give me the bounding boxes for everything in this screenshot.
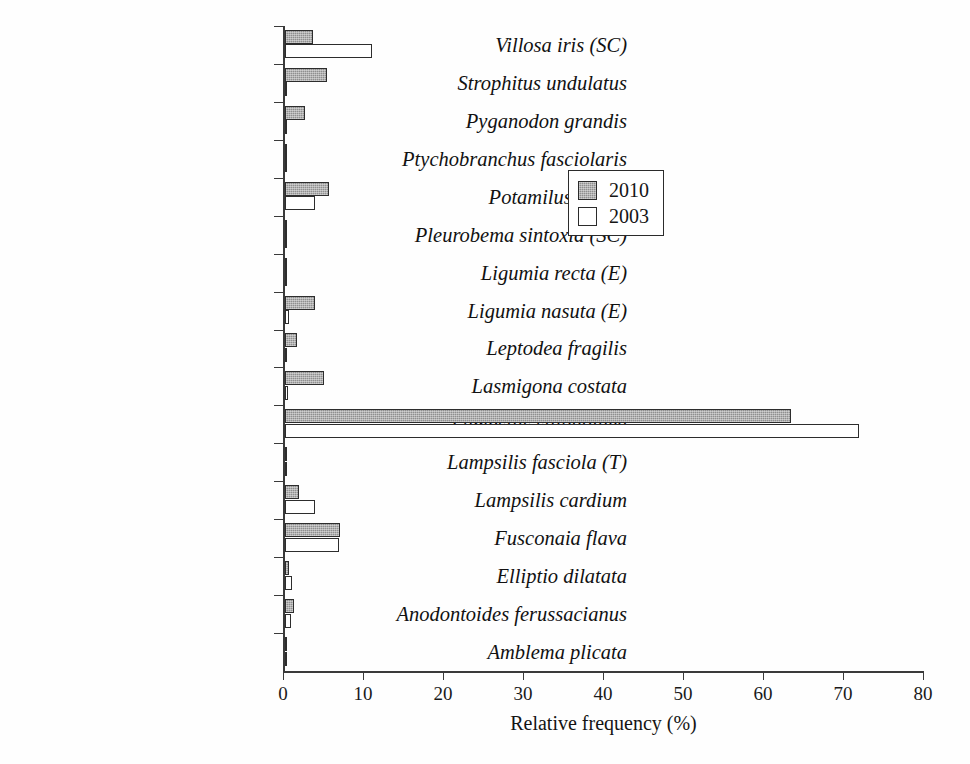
- category-row: Lampsilis siliquoidea: [283, 405, 923, 441]
- y-axis-tick: [274, 557, 283, 558]
- category-label: Amblema plicata: [488, 642, 628, 663]
- x-axis-tick-label: 50: [674, 683, 693, 705]
- y-axis-tick: [274, 178, 283, 179]
- bar-2010: [285, 523, 340, 537]
- bar-2003: [285, 234, 287, 248]
- category-label: Fusconaia flava: [494, 528, 627, 549]
- legend-entry: 2010: [578, 177, 649, 203]
- bar-2010: [285, 258, 287, 272]
- y-axis-tick: [274, 481, 283, 482]
- category-row: Lampsilis cardium: [283, 481, 923, 517]
- x-axis-tick: [443, 671, 444, 680]
- x-axis-tick: [363, 671, 364, 680]
- bar-2010: [285, 447, 287, 461]
- y-axis-tick: [274, 367, 283, 368]
- y-axis-tick: [557, 671, 566, 672]
- category-label: Strophitus undulatus: [457, 73, 627, 94]
- category-row: Anodontoides ferussacianus: [283, 595, 923, 631]
- y-axis-tick: [274, 216, 283, 217]
- x-axis-tick: [923, 671, 924, 680]
- legend-swatch-icon: [578, 207, 597, 226]
- category-label: Ligumia recta (E): [481, 263, 627, 284]
- x-axis-tick: [283, 671, 284, 680]
- category-label: Ligumia nasuta (E): [468, 301, 627, 322]
- x-axis-title: Relative frequency (%): [283, 712, 924, 735]
- legend-entry: 2003: [578, 203, 649, 229]
- x-axis-tick: [603, 671, 604, 680]
- bar-2003: [285, 272, 287, 286]
- bar-2003: [285, 44, 372, 58]
- y-axis-tick: [274, 330, 283, 331]
- y-axis-tick: [274, 519, 283, 520]
- category-row: Lampsilis fasciola (T): [283, 443, 923, 479]
- bar-2010: [285, 144, 287, 158]
- bar-2003: [285, 424, 859, 438]
- category-row: Elliptio dilatata: [283, 557, 923, 593]
- bar-2003: [285, 538, 339, 552]
- y-axis-tick: [274, 595, 283, 596]
- category-row: Ligumia recta (E): [283, 254, 923, 290]
- bar-2010: [285, 30, 313, 44]
- category-label: Leptodea fragilis: [486, 338, 627, 359]
- x-axis-tick: [523, 671, 524, 680]
- x-axis-tick-label: 10: [354, 683, 373, 705]
- y-axis-tick: [274, 102, 283, 103]
- bar-2010: [285, 182, 329, 196]
- bar-2010: [285, 599, 294, 613]
- legend-label: 2003: [609, 206, 649, 226]
- caption-sliver: [8, 752, 958, 764]
- category-label: Anodontoides ferussacianus: [396, 604, 627, 625]
- x-axis-tick-label: 20: [434, 683, 453, 705]
- bar-2003: [285, 500, 315, 514]
- y-axis-tick: [274, 254, 283, 255]
- category-row: Pyganodon grandis: [283, 102, 923, 138]
- y-axis-tick: [274, 140, 283, 141]
- category-label: Lampsilis fasciola (T): [447, 452, 627, 473]
- bar-2003: [285, 158, 287, 172]
- bar-2003: [285, 310, 289, 324]
- bar-2010: [285, 333, 297, 347]
- category-row: Leptodea fragilis: [283, 330, 923, 366]
- category-label: Lasmigona costata: [472, 376, 627, 397]
- x-axis-tick-label: 60: [754, 683, 773, 705]
- bar-2003: [285, 196, 315, 210]
- bar-2003: [285, 576, 292, 590]
- bar-2010: [285, 220, 287, 234]
- chart-legend: 20102003: [568, 170, 664, 236]
- x-axis-tick-label: 0: [278, 683, 288, 705]
- y-axis-tick: [274, 292, 283, 293]
- bar-2003: [285, 614, 291, 628]
- bar-2010: [285, 409, 791, 423]
- bar-2003: [285, 348, 287, 362]
- x-axis-tick-label: 80: [914, 683, 933, 705]
- bar-2003: [285, 386, 288, 400]
- x-axis-tick-label: 70: [834, 683, 853, 705]
- category-row: Strophitus undulatus: [283, 64, 923, 100]
- bar-2003: [285, 120, 287, 134]
- category-row: Ligumia nasuta (E): [283, 292, 923, 328]
- y-axis-tick: [274, 64, 283, 65]
- category-row: Lasmigona costata: [283, 367, 923, 403]
- bar-2010: [285, 371, 324, 385]
- y-axis-tick: [274, 443, 283, 444]
- bar-2003: [285, 82, 287, 96]
- category-label: Elliptio dilatata: [497, 566, 627, 587]
- x-axis-tick-label: 30: [514, 683, 533, 705]
- legend-swatch-icon: [578, 181, 597, 200]
- category-row: Villosa iris (SC): [283, 26, 923, 62]
- x-axis-tick: [843, 671, 844, 680]
- category-label: Villosa iris (SC): [495, 35, 627, 56]
- category-label: Pyganodon grandis: [466, 111, 627, 132]
- bar-2010: [285, 561, 289, 575]
- x-axis-tick-label: 40: [594, 683, 613, 705]
- bar-2003: [285, 652, 287, 666]
- bar-2010: [285, 485, 299, 499]
- y-axis-tick: [274, 633, 283, 634]
- bar-chart-figure: Villosa iris (SC)Strophitus undulatusPyg…: [0, 0, 970, 764]
- category-row: Fusconaia flava: [283, 519, 923, 555]
- category-label: Lampsilis cardium: [475, 490, 627, 511]
- bar-2010: [285, 637, 287, 651]
- bar-2010: [285, 106, 305, 120]
- category-label: Ptychobranchus fasciolaris: [402, 149, 627, 170]
- x-axis-tick: [683, 671, 684, 680]
